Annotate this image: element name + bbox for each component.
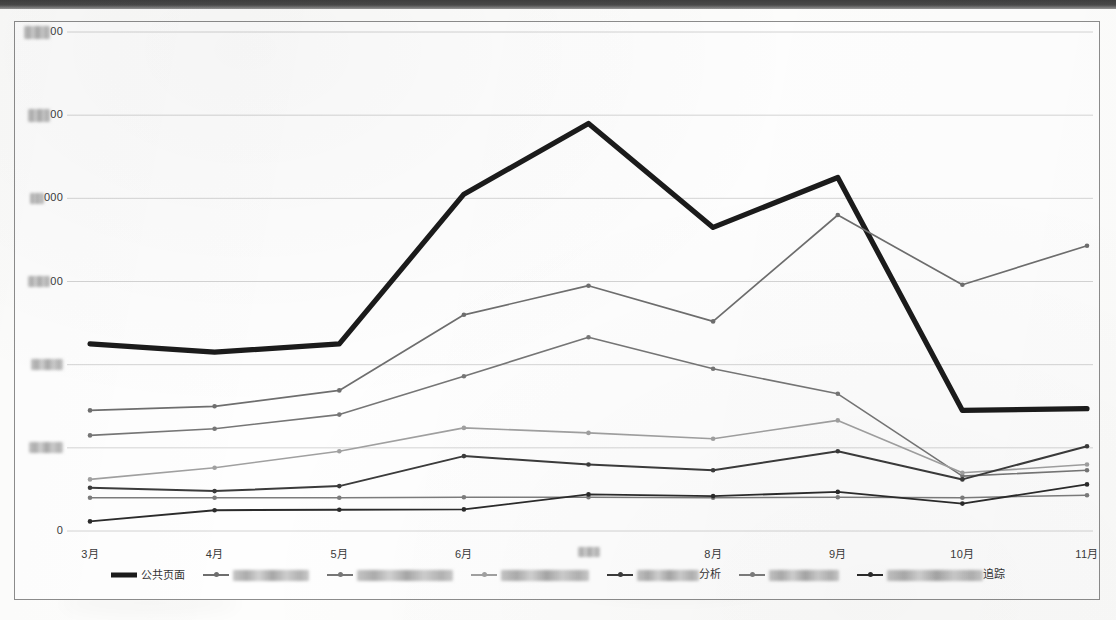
y-tick-label: 00 bbox=[15, 275, 63, 288]
data-point bbox=[711, 319, 716, 324]
chart-screenshot: 0000000000 3月4月5月6月8月9月10月11月 公共页面分析追踪 bbox=[0, 0, 1116, 620]
series-line-0 bbox=[90, 124, 1087, 411]
series-line-1 bbox=[90, 215, 1087, 410]
redaction-smudge bbox=[28, 109, 50, 122]
y-tick-visible-fragment: 00 bbox=[50, 275, 63, 287]
series-line-3 bbox=[90, 420, 1087, 479]
data-point bbox=[337, 412, 342, 417]
legend-label bbox=[233, 568, 309, 581]
legend-label bbox=[769, 568, 839, 581]
redaction-smudge bbox=[357, 570, 453, 581]
data-point bbox=[1085, 493, 1090, 498]
data-point bbox=[586, 431, 591, 436]
data-point bbox=[212, 495, 217, 500]
data-point bbox=[960, 501, 965, 506]
redaction-smudge bbox=[28, 276, 50, 287]
data-point bbox=[88, 495, 93, 500]
legend-item-6[interactable]: 追踪 bbox=[857, 568, 1005, 581]
legend-item-1[interactable] bbox=[203, 568, 309, 581]
data-point bbox=[586, 283, 591, 288]
data-point bbox=[960, 477, 965, 482]
legend-label: 分析 bbox=[637, 568, 721, 581]
data-point bbox=[88, 486, 93, 491]
legend-label bbox=[501, 568, 589, 581]
data-point bbox=[212, 489, 217, 494]
series-lines bbox=[90, 124, 1087, 522]
legend-item-4[interactable]: 分析 bbox=[607, 568, 721, 581]
data-point bbox=[1085, 462, 1090, 467]
redaction-smudge bbox=[29, 442, 63, 453]
data-point bbox=[1085, 243, 1090, 248]
data-point bbox=[836, 449, 841, 454]
data-point bbox=[960, 283, 965, 288]
data-point bbox=[88, 519, 93, 524]
data-point bbox=[337, 484, 342, 489]
x-tick-label: 6月 bbox=[434, 545, 494, 561]
data-point bbox=[836, 418, 841, 423]
legend-visible-fragment: 分析 bbox=[699, 568, 721, 580]
legend-swatch-icon bbox=[471, 570, 497, 580]
data-point bbox=[836, 213, 841, 218]
data-point bbox=[462, 374, 467, 379]
data-point bbox=[212, 404, 217, 409]
legend-item-5[interactable] bbox=[739, 568, 839, 581]
data-point bbox=[1085, 444, 1090, 449]
legend-item-0[interactable]: 公共页面 bbox=[111, 569, 185, 581]
data-point bbox=[337, 449, 342, 454]
legend-item-3[interactable] bbox=[471, 568, 589, 581]
x-tick-label: 4月 bbox=[185, 545, 245, 561]
y-tick-label: 000 bbox=[15, 191, 63, 204]
redaction-smudge bbox=[233, 570, 309, 581]
data-point bbox=[88, 408, 93, 413]
y-tick-visible-fragment: 000 bbox=[44, 191, 63, 203]
legend-swatch-icon bbox=[111, 570, 137, 580]
data-point bbox=[960, 495, 965, 500]
x-tick-label: 8月 bbox=[683, 545, 743, 561]
data-point bbox=[88, 433, 93, 438]
data-point bbox=[711, 494, 716, 499]
data-point bbox=[1085, 468, 1090, 473]
legend-label bbox=[357, 568, 453, 581]
redaction-smudge bbox=[578, 547, 600, 557]
data-point bbox=[586, 492, 591, 497]
x-tick-label: 9月 bbox=[808, 545, 868, 561]
legend-swatch-icon bbox=[739, 570, 765, 580]
legend-label: 追踪 bbox=[887, 568, 1005, 581]
data-point bbox=[711, 367, 716, 372]
legend-item-2[interactable] bbox=[327, 568, 453, 581]
data-point bbox=[462, 313, 467, 318]
legend-swatch-icon bbox=[857, 570, 883, 580]
y-tick-label: 00 bbox=[15, 25, 63, 39]
data-point bbox=[836, 490, 841, 495]
y-tick-label bbox=[15, 441, 63, 454]
redaction-smudge bbox=[30, 193, 44, 204]
redaction-smudge bbox=[637, 570, 699, 581]
y-tick-label: 0 bbox=[15, 524, 63, 536]
gridlines bbox=[67, 32, 1093, 531]
data-point bbox=[836, 495, 841, 500]
data-point bbox=[212, 426, 217, 431]
legend-visible-fragment: 追踪 bbox=[983, 568, 1005, 580]
legend-label: 公共页面 bbox=[141, 569, 185, 581]
data-point bbox=[462, 495, 467, 500]
data-point bbox=[337, 388, 342, 393]
legend-swatch-icon bbox=[607, 570, 633, 580]
redaction-smudge bbox=[24, 26, 50, 39]
x-tick-label: 11月 bbox=[1057, 545, 1116, 561]
x-tick-label: 3月 bbox=[60, 545, 120, 561]
scan-edge-bar bbox=[0, 0, 1116, 9]
data-point bbox=[212, 466, 217, 471]
series-line-4 bbox=[90, 446, 1087, 491]
data-point bbox=[711, 436, 716, 441]
y-tick-visible-fragment: 00 bbox=[50, 25, 63, 37]
y-tick-visible-fragment: 00 bbox=[50, 108, 63, 120]
data-point bbox=[337, 508, 342, 513]
x-tick-label: 5月 bbox=[309, 545, 369, 561]
chart-plot-frame: 0000000000 3月4月5月6月8月9月10月11月 公共页面分析追踪 bbox=[14, 21, 1100, 600]
data-point bbox=[337, 495, 342, 500]
x-tick-label bbox=[559, 545, 619, 557]
series-line-2 bbox=[90, 337, 1087, 476]
data-point bbox=[586, 335, 591, 340]
data-point bbox=[462, 507, 467, 512]
data-point bbox=[462, 426, 467, 431]
